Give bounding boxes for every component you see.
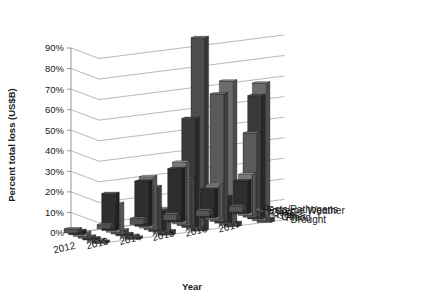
bar-side-face xyxy=(219,183,223,219)
gridline-left-wall xyxy=(71,212,99,223)
y-tick-label: 90% xyxy=(45,42,65,53)
bar-side-face xyxy=(252,173,256,216)
bar-side-face xyxy=(248,179,252,213)
bar-front-face xyxy=(97,225,111,229)
y-tick-label: 50% xyxy=(45,125,65,136)
bar-side-face xyxy=(186,161,190,224)
bars-layer xyxy=(64,36,275,243)
y-tick-label: 20% xyxy=(45,186,65,197)
bar-side-face xyxy=(262,94,266,219)
y-axis-tick-labels: 0%10%20%30%40%50%60%70%80%90% xyxy=(45,42,65,238)
bar-top-face xyxy=(97,223,115,224)
bar-top-face xyxy=(229,204,247,205)
bar-top-face xyxy=(163,213,181,214)
bar-top-face xyxy=(135,180,153,181)
bar-3d xyxy=(196,209,214,217)
bar-side-face xyxy=(153,175,157,228)
bar-front-face xyxy=(64,229,78,233)
bar-top-face xyxy=(139,175,157,176)
gridline-left-wall xyxy=(71,192,99,203)
gridline-left-wall xyxy=(71,151,99,162)
bar-3d xyxy=(97,223,115,229)
bar-side-face xyxy=(116,192,120,230)
bar-top-face xyxy=(243,132,261,133)
gridline-left-wall xyxy=(71,69,99,80)
bar-3d xyxy=(64,227,82,233)
bar-side-face xyxy=(215,188,219,218)
y-tick-label: 40% xyxy=(45,145,65,156)
bar-top-face xyxy=(210,93,228,94)
bar-front-face xyxy=(229,206,243,212)
bar-top-face xyxy=(172,161,190,162)
x-tick-label: 2012 xyxy=(52,240,77,256)
y-tick-label: 70% xyxy=(45,84,65,95)
bar-side-face xyxy=(266,82,270,221)
bar-top-face xyxy=(205,183,223,184)
series-label-pests-pathogens: Pests/Pathogens xyxy=(262,204,338,215)
bar-3d xyxy=(229,204,247,212)
gridline-left-wall xyxy=(71,171,99,182)
bar-front-face xyxy=(130,218,144,224)
y-tick-label: 10% xyxy=(45,207,65,218)
bar-chart-3d: 0%10%20%30%40%50%60%70%80%90% 2012201320… xyxy=(0,0,437,301)
bar-top-face xyxy=(182,117,200,118)
y-tick-label: 0% xyxy=(50,227,64,238)
bar-top-face xyxy=(196,209,214,210)
bar-top-face xyxy=(64,227,82,228)
bar-top-face xyxy=(219,80,237,81)
bar-side-face xyxy=(158,185,162,230)
y-axis-title: Percent total loss (US$B) xyxy=(6,88,17,202)
bar-side-face xyxy=(120,202,124,232)
gridline-left-wall xyxy=(71,130,99,141)
bar-3d xyxy=(163,213,181,221)
gridline-left-wall xyxy=(71,48,99,59)
x-axis-title: Year xyxy=(182,281,202,292)
bar-side-face xyxy=(257,132,261,218)
gridline-left-wall xyxy=(71,110,99,121)
bar-3d xyxy=(130,217,148,225)
bar-top-face xyxy=(168,167,186,168)
bar-top-face xyxy=(238,173,256,174)
bar-top-face xyxy=(130,217,148,218)
bar-top-face xyxy=(201,188,219,189)
bar-top-face xyxy=(234,179,252,180)
bar-front-face xyxy=(196,210,210,216)
bar-top-face xyxy=(102,192,120,193)
bar-front-face xyxy=(163,214,177,220)
bar-top-face xyxy=(252,82,270,83)
y-tick-label: 80% xyxy=(45,63,65,74)
bar-top-face xyxy=(191,36,209,37)
y-tick-label: 30% xyxy=(45,166,65,177)
y-tick-label: 60% xyxy=(45,104,65,115)
chart-container: 0%10%20%30%40%50%60%70%80%90% 2012201320… xyxy=(0,0,437,301)
bar-side-face xyxy=(191,177,195,226)
bar-side-face xyxy=(149,180,153,227)
bar-top-face xyxy=(248,94,266,95)
gridline-left-wall xyxy=(71,89,99,100)
bar-side-face xyxy=(224,93,228,222)
bar-side-face xyxy=(182,167,186,222)
